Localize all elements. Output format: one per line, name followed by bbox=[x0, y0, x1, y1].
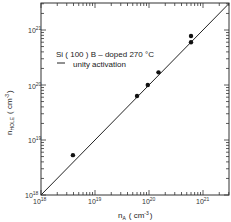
data-point bbox=[156, 70, 160, 74]
data-point bbox=[189, 34, 193, 38]
y-axis-label: nHOLE( cm-3) bbox=[4, 90, 15, 135]
data-point bbox=[135, 94, 139, 98]
data-point bbox=[71, 153, 75, 157]
y-tick-label-1e21: 1021 bbox=[28, 25, 42, 34]
x-tick-label-1e21: 1021 bbox=[196, 196, 210, 205]
x-tick-label-1e20: 1020 bbox=[142, 196, 156, 205]
data-point bbox=[189, 40, 193, 44]
x-tick-label-1e18: 1018 bbox=[33, 196, 47, 205]
x-axis-label: nA( cm-3) bbox=[118, 210, 153, 221]
legend: Si ( 100 ) B – doped 270 °C unity activa… bbox=[56, 50, 154, 69]
data-point bbox=[146, 83, 150, 87]
log-log-scatter-chart: 1018 1019 1020 1021 1018 1019 1020 1021 … bbox=[0, 0, 231, 222]
x-tick-label-1e19: 1019 bbox=[88, 196, 102, 205]
legend-series-label: Si ( 100 ) B – doped 270 °C bbox=[56, 50, 154, 59]
y-tick-label-1e19: 1019 bbox=[28, 135, 42, 144]
legend-line-label: unity activation bbox=[73, 60, 126, 69]
y-tick-labels: 1018 1019 1020 1021 bbox=[25, 25, 42, 199]
y-tick-label-1e20: 1020 bbox=[28, 81, 42, 90]
unity-activation-line bbox=[41, 4, 229, 195]
x-tick-labels: 1018 1019 1020 1021 bbox=[33, 196, 210, 205]
